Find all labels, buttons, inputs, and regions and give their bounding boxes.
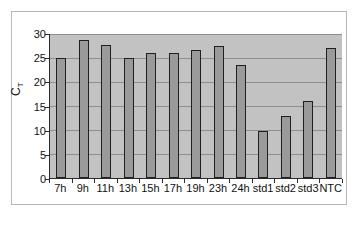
x-axis-tick-label: 17h	[162, 182, 185, 195]
x-axis-tick-mark	[252, 179, 253, 183]
x-axis-tick-mark	[342, 179, 343, 183]
bar-slot	[162, 34, 184, 178]
x-axis-tick-mark	[139, 179, 140, 183]
x-axis-tick-label: std3	[297, 182, 320, 195]
bar[interactable]	[303, 101, 313, 178]
bar[interactable]	[56, 58, 66, 178]
y-axis-tick-mark	[45, 58, 49, 59]
x-axis-tick-label: 13h	[117, 182, 140, 195]
x-axis-tick-mark	[162, 179, 163, 183]
x-axis-tick-label: 9h	[72, 182, 95, 195]
bar[interactable]	[169, 53, 179, 178]
x-axis-tick-label: 11h	[94, 182, 117, 195]
bar[interactable]	[326, 48, 336, 178]
x-axis-tick-label: 24h	[229, 182, 252, 195]
bar[interactable]	[258, 131, 268, 178]
bar[interactable]	[146, 53, 156, 178]
y-axis-title-main: C	[9, 87, 23, 96]
bar-slot	[275, 34, 297, 178]
y-axis-tick-mark	[45, 107, 49, 108]
y-axis-tick-mark	[45, 131, 49, 132]
x-axis-tick-labels: 7h9h11h13h15h17h19h23h24hstd1std2std3NTC	[49, 182, 342, 195]
chart-frame: CT 051015202530 7h9h11h13h15h17h19h23h24…	[11, 11, 347, 205]
x-axis-tick-label: 7h	[49, 182, 72, 195]
x-axis-tick-mark	[274, 179, 275, 183]
bar-slot	[320, 34, 342, 178]
bar-slot	[117, 34, 139, 178]
bar[interactable]	[236, 65, 246, 178]
bar-slot	[297, 34, 319, 178]
x-axis-tick-mark	[49, 179, 50, 183]
x-axis-tick-label: NTC	[319, 182, 342, 195]
x-axis-tick-label: 15h	[139, 182, 162, 195]
x-axis-tick-mark	[207, 179, 208, 183]
x-axis-tick-mark	[117, 179, 118, 183]
y-axis-tick-mark	[45, 155, 49, 156]
x-axis-tick-label: 23h	[207, 182, 230, 195]
bar[interactable]	[101, 45, 111, 178]
bar[interactable]	[124, 58, 134, 178]
x-axis-tick-label: std2	[274, 182, 297, 195]
bar[interactable]	[79, 40, 89, 178]
x-axis-tick-mark	[297, 179, 298, 183]
y-axis-tick-mark	[45, 82, 49, 83]
bar-slot	[50, 34, 72, 178]
x-axis-tick-mark	[94, 179, 95, 183]
x-axis-tick-mark	[229, 179, 230, 183]
x-axis-tick-label: std1	[252, 182, 275, 195]
bar[interactable]	[191, 50, 201, 178]
bar-slot	[95, 34, 117, 178]
x-axis-tick-mark	[319, 179, 320, 183]
plot-area	[49, 34, 342, 179]
y-axis-tick-labels: 051015202530	[22, 34, 46, 179]
bar-slot	[252, 34, 274, 178]
bar[interactable]	[281, 116, 291, 178]
y-axis-tick-mark	[45, 34, 49, 35]
bar[interactable]	[214, 46, 224, 178]
bar-slot	[230, 34, 252, 178]
bar-slot	[185, 34, 207, 178]
bar-slot	[207, 34, 229, 178]
bar-slot	[72, 34, 94, 178]
bar-slot	[140, 34, 162, 178]
x-axis-tick-label: 19h	[184, 182, 207, 195]
bar-series	[50, 34, 342, 178]
x-axis-tick-mark	[184, 179, 185, 183]
x-axis-tick-mark	[72, 179, 73, 183]
